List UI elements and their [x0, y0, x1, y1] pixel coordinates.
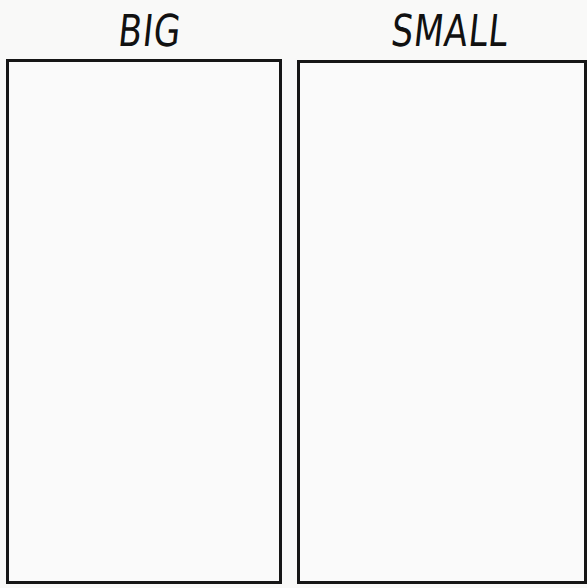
big-heading: BIG [77, 6, 223, 56]
small-sorting-box [297, 60, 587, 584]
big-sorting-box [6, 59, 282, 584]
small-heading: SMALL [354, 6, 546, 56]
